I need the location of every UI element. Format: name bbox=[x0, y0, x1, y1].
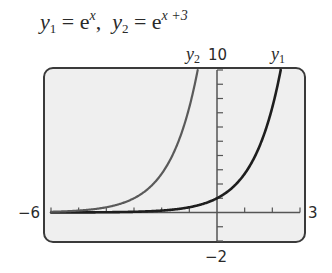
ymax-label: 10 bbox=[208, 46, 227, 64]
curve-label-y1: y1 bbox=[271, 44, 285, 67]
ymin-label: −2 bbox=[205, 248, 227, 266]
curve-label-y2: y2 bbox=[186, 44, 200, 67]
xmax-label: 3 bbox=[308, 204, 318, 222]
viewing-window-frame bbox=[44, 68, 305, 242]
plot-area bbox=[0, 0, 332, 273]
xmin-label: −6 bbox=[18, 204, 40, 222]
